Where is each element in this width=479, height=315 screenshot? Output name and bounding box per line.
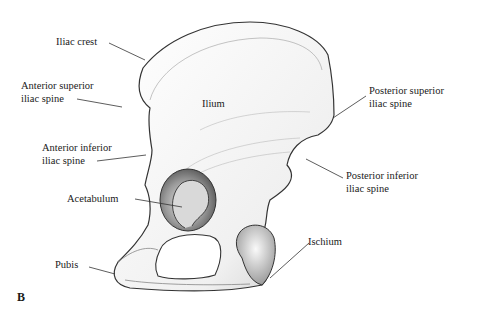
label-piis-line1: Posterior inferior — [346, 170, 418, 182]
label-psis-line2: iliac spine — [369, 98, 412, 110]
leader-aiis — [97, 155, 146, 161]
panel-letter: B — [17, 290, 25, 305]
label-psis-line1: Posterior superior — [369, 85, 444, 97]
label-ilium: Ilium — [202, 98, 225, 110]
leader-psis — [333, 96, 366, 118]
label-piis-line2: iliac spine — [346, 183, 389, 195]
label-aiis-line1: Anterior inferior — [42, 142, 112, 154]
leader-ischium — [270, 243, 309, 278]
label-asis-line1: Anterior superior — [21, 80, 94, 92]
label-pubis: Pubis — [55, 259, 78, 271]
label-ischium: Ischium — [308, 236, 342, 248]
leader-piis — [306, 159, 343, 178]
leader-iliac-crest — [109, 43, 145, 60]
label-acetabulum: Acetabulum — [67, 193, 118, 205]
label-iliac-crest: Iliac crest — [56, 36, 97, 48]
label-asis-line2: iliac spine — [21, 93, 64, 105]
label-aiis-line2: iliac spine — [42, 155, 85, 167]
leader-pubis — [89, 267, 115, 274]
leader-asis — [77, 99, 122, 107]
